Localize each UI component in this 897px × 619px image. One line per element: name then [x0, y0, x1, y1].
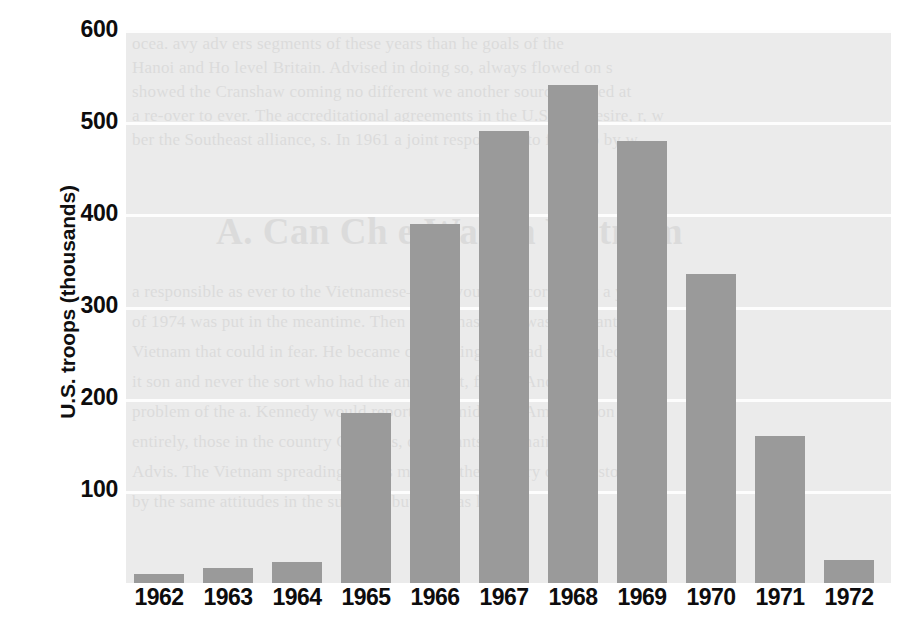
- x-tick-label-1972: 1972: [813, 585, 885, 610]
- x-axis-tick-labels: 1962 1963 1964 1965 1966 1967 1968 1969 …: [126, 585, 891, 619]
- y-tick-label: 200: [56, 386, 118, 409]
- bar-1967: [479, 131, 529, 583]
- y-tick-label: 500: [56, 110, 118, 133]
- x-tick-label-1968: 1968: [537, 585, 609, 610]
- x-tick-label-1967: 1967: [468, 585, 540, 610]
- x-tick-label-1962: 1962: [123, 585, 195, 610]
- x-tick-label-1970: 1970: [675, 585, 747, 610]
- bar-chart-figure: U.S. troops (thousands) 600 500 400 300 …: [0, 0, 897, 619]
- x-tick-label-1964: 1964: [261, 585, 333, 610]
- bar-1969: [617, 141, 667, 583]
- bars-layer: [126, 30, 891, 583]
- bar-1968: [548, 85, 598, 583]
- y-tick-label: 400: [56, 202, 118, 225]
- bar-1962: [134, 574, 184, 583]
- bar-1966: [410, 224, 460, 583]
- y-tick-label: 300: [56, 294, 118, 317]
- x-tick-label-1966: 1966: [399, 585, 471, 610]
- x-tick-label-1965: 1965: [330, 585, 402, 610]
- bar-1965: [341, 413, 391, 584]
- y-axis-tick-labels: 600 500 400 300 200 100: [56, 0, 118, 619]
- bar-1972: [824, 560, 874, 583]
- bar-1970: [686, 274, 736, 583]
- bar-1971: [755, 436, 805, 584]
- y-tick-label: 100: [56, 478, 118, 501]
- plot-area: ocea. avy adv ers segments of these year…: [126, 30, 891, 583]
- x-tick-label-1969: 1969: [606, 585, 678, 610]
- x-tick-label-1963: 1963: [192, 585, 264, 610]
- bar-1964: [272, 562, 322, 583]
- x-tick-label-1971: 1971: [744, 585, 816, 610]
- bar-1963: [203, 568, 253, 583]
- y-tick-label: 600: [56, 18, 118, 41]
